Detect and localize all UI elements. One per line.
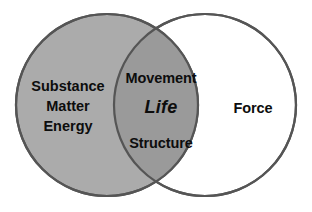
label-movement: Movement — [126, 71, 197, 86]
substance-label-group: Substance Matter Energy — [13, 76, 123, 136]
venn-label-layer: Substance Matter Energy Movement Life St… — [0, 0, 312, 212]
label-force: Force — [234, 101, 273, 116]
venn-diagram: Substance Matter Energy Movement Life St… — [0, 0, 312, 212]
label-substance: Substance — [13, 76, 123, 96]
label-structure: Structure — [129, 136, 193, 151]
label-life: Life — [145, 98, 178, 116]
label-matter: Matter — [13, 96, 123, 116]
label-energy: Energy — [13, 116, 123, 136]
